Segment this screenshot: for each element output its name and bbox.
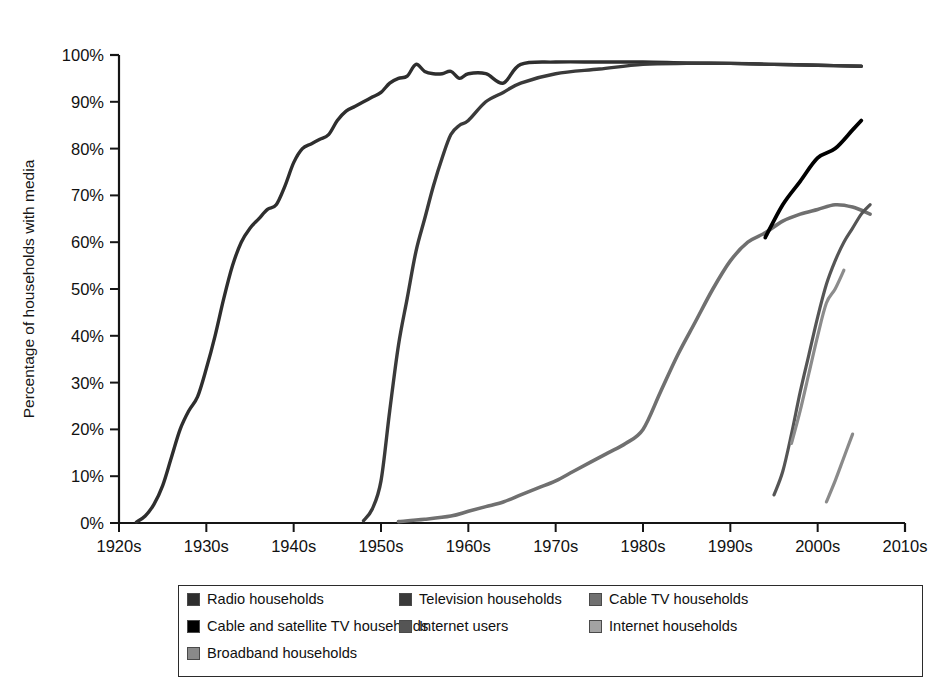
y-axis-tick-label: 60% — [71, 233, 104, 251]
legend-item[interactable]: Cable and satellite TV households — [187, 619, 399, 634]
y-axis-tick-label: 20% — [71, 420, 104, 438]
chart-tick-labels: 0%10%20%30%40%50%60%70%80%90%100%1920s19… — [62, 46, 928, 555]
chart-legend: Radio householdsTelevision householdsCab… — [178, 585, 923, 677]
series-line — [765, 121, 861, 238]
legend-label: Broadband households — [207, 646, 357, 661]
y-axis-tick-label: 70% — [71, 186, 104, 204]
legend-row: Cable and satellite TV householdsInterne… — [187, 619, 922, 646]
legend-label: Internet users — [419, 619, 508, 634]
legend-swatch-icon — [399, 593, 412, 606]
x-axis-tick-label: 1950s — [359, 537, 404, 555]
legend-item[interactable]: Broadband households — [187, 646, 399, 661]
legend-item[interactable]: Internet users — [399, 619, 589, 634]
legend-row: Radio householdsTelevision householdsCab… — [187, 592, 922, 619]
legend-item[interactable]: Cable TV households — [589, 592, 789, 607]
legend-swatch-icon — [589, 593, 602, 606]
y-axis-title-text: Percentage of households with media — [20, 159, 37, 418]
legend-swatch-icon — [399, 620, 412, 633]
series-line — [774, 205, 870, 495]
x-axis-tick-label: 1940s — [271, 537, 316, 555]
media-adoption-chart: 0%10%20%30%40%50%60%70%80%90%100%1920s19… — [0, 0, 945, 690]
legend-label: Cable TV households — [609, 592, 748, 607]
legend-swatch-icon — [187, 647, 200, 660]
y-axis-tick-label: 80% — [71, 140, 104, 158]
series-line — [136, 62, 861, 522]
y-axis-title: Percentage of households with media — [20, 159, 37, 418]
legend-item[interactable]: Internet households — [589, 619, 789, 634]
x-axis-tick-label: 1920s — [97, 537, 142, 555]
series-line — [791, 270, 843, 443]
legend-item[interactable]: Television households — [399, 592, 589, 607]
y-axis-tick-label: 90% — [71, 93, 104, 111]
x-axis-tick-label: 2000s — [795, 537, 840, 555]
x-axis-tick-label: 1990s — [708, 537, 753, 555]
y-axis-tick-label: 50% — [71, 280, 104, 298]
legend-row: Broadband households — [187, 646, 922, 673]
x-axis-tick-label: 1970s — [533, 537, 578, 555]
chart-series-lines — [136, 62, 870, 522]
y-axis-tick-label: 30% — [71, 374, 104, 392]
legend-item[interactable]: Radio households — [187, 592, 399, 607]
x-axis-tick-label: 1980s — [621, 537, 666, 555]
series-line — [398, 205, 870, 522]
legend-label: Internet households — [609, 619, 737, 634]
series-line — [826, 434, 852, 502]
y-axis-tick-label: 40% — [71, 327, 104, 345]
legend-swatch-icon — [187, 620, 200, 633]
legend-label: Radio households — [207, 592, 324, 607]
y-axis-tick-label: 10% — [71, 467, 104, 485]
x-axis-tick-label: 2010s — [883, 537, 928, 555]
legend-swatch-icon — [187, 593, 200, 606]
x-axis-tick-label: 1960s — [446, 537, 491, 555]
y-axis-tick-label: 0% — [80, 514, 104, 532]
x-axis-tick-label: 1930s — [184, 537, 229, 555]
legend-label: Cable and satellite TV households — [207, 619, 428, 634]
legend-label: Television households — [419, 592, 562, 607]
legend-grid: Radio householdsTelevision householdsCab… — [179, 586, 922, 676]
y-axis-tick-label: 100% — [62, 46, 105, 64]
legend-swatch-icon — [589, 620, 602, 633]
